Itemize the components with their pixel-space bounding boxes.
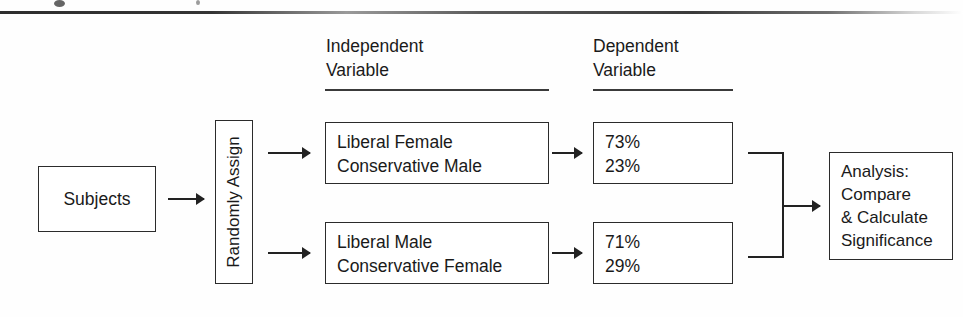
results-merge-bracket [748,152,784,258]
independent-variable-header: Independent Variable [326,34,423,82]
arrow-randomly-assign-to-condition-1 [268,152,310,154]
randomly-assign-node-label: Randomly Assign [222,136,246,267]
result-node-2-label: 71% 29% [605,232,640,276]
result-node-1-label: 73% 23% [605,132,640,176]
condition-node-2-label: Liberal Male Conservative Female [337,232,502,276]
condition-node-2: Liberal Male Conservative Female [325,222,549,284]
arrow-randomly-assign-to-condition-2 [268,252,310,254]
bracket-bottom-arm [748,256,784,258]
subjects-node-label: Subjects [63,187,130,211]
dependent-variable-header-rule [593,89,733,91]
arrow-results-to-analysis [782,205,820,207]
arrow-subjects-to-randomly-assign [168,198,204,200]
bracket-top-arm [748,152,784,154]
randomly-assign-node: Randomly Assign [215,120,253,284]
result-node-2: 71% 29% [593,222,733,284]
condition-node-1: Liberal Female Conservative Male [325,122,549,184]
analysis-node-label: Analysis: Compare & Calculate Significan… [841,162,933,250]
page-top-rule [0,11,963,14]
subjects-node: Subjects [38,166,156,232]
independent-variable-header-rule [325,89,549,91]
arrow-condition-1-to-result-1 [552,152,582,154]
result-node-1: 73% 23% [593,122,733,184]
scan-artifact-mark [54,0,65,7]
arrow-condition-2-to-result-2 [552,252,582,254]
scan-artifact-mark [196,0,200,5]
analysis-node: Analysis: Compare & Calculate Significan… [829,152,953,260]
figure-canvas: Independent Variable Dependent Variable … [0,0,963,317]
condition-node-1-label: Liberal Female Conservative Male [337,132,482,176]
dependent-variable-header: Dependent Variable [593,34,679,82]
